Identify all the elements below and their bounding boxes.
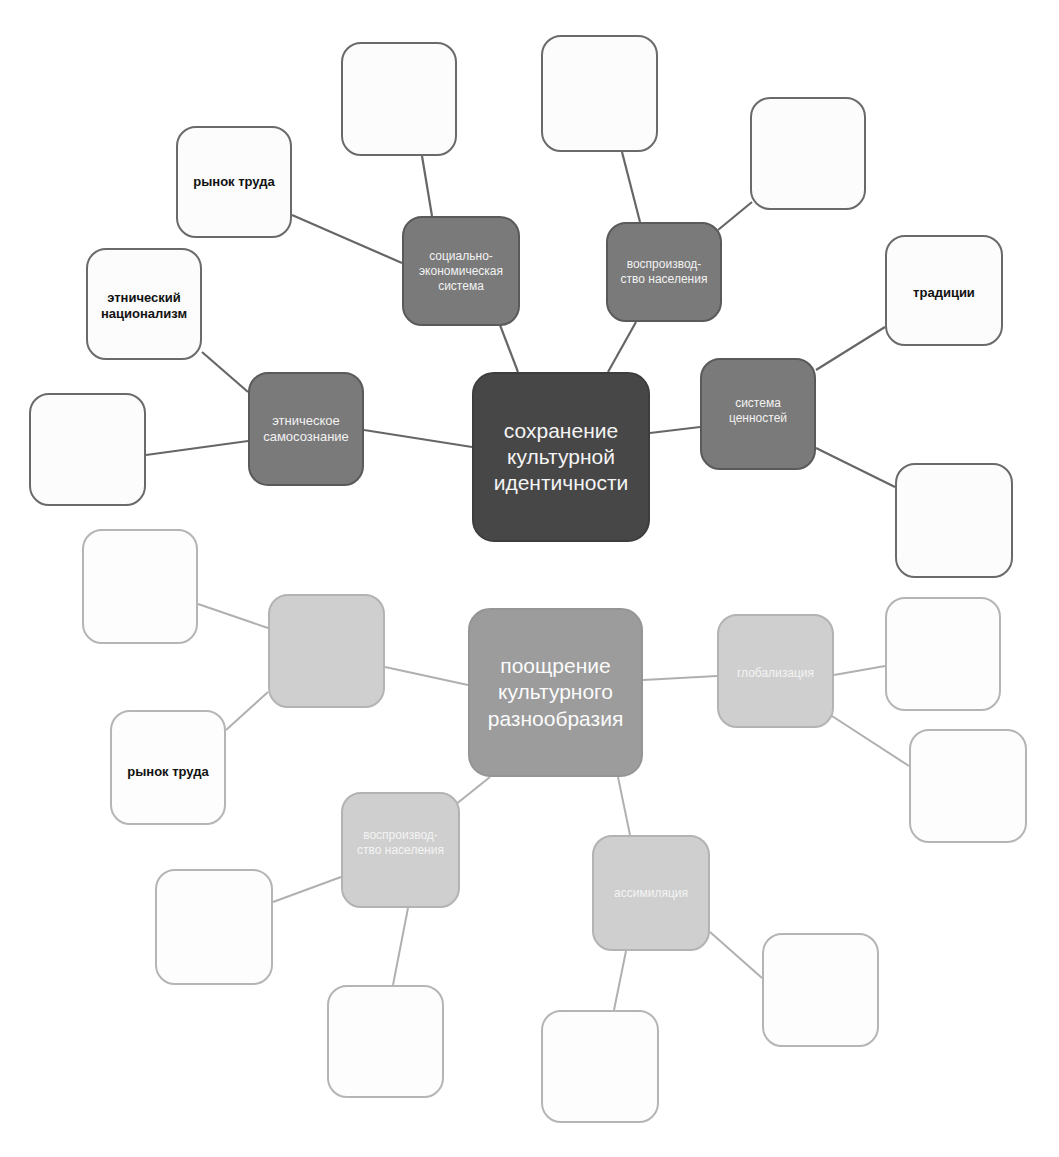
- edge-root-to-values: [650, 427, 700, 433]
- leaf-node-empty: [750, 97, 866, 210]
- leaf-node-empty: [327, 985, 444, 1098]
- leaf-node-labor-market: рынок труда: [110, 710, 226, 825]
- edge-ethnic-to-empty-left: [146, 441, 248, 455]
- branch-node-value-system: система ценностей: [700, 358, 816, 470]
- branch-node-label: система ценностей: [729, 396, 787, 426]
- branch-node-population-reproduction: воспроизвод- ство населения: [606, 222, 722, 322]
- edge-globalization-to-empty-2: [832, 716, 909, 766]
- edge-repro-to-empty-right: [718, 202, 752, 230]
- root-node-label: поощрение культурного разнообразия: [488, 653, 624, 732]
- edge-repro2-to-empty-bottom: [393, 908, 408, 985]
- branch-node-label: ассимиляция: [614, 886, 688, 901]
- branch-node-globalization: глобализация: [717, 614, 834, 728]
- leaf-node-ethnic-nationalism: этнический национализм: [86, 248, 202, 360]
- branch-node-socioeconomic-system: социально- экономическая система: [402, 216, 520, 326]
- leaf-node-traditions: традиции: [885, 235, 1003, 346]
- edge-root-to-ethnic-selfawareness: [364, 430, 472, 447]
- leaf-node-empty: [762, 933, 879, 1047]
- edge-repro2-to-empty-left: [273, 877, 341, 902]
- root-node-preserving-cultural-identity: сохранение культурной идентичности: [472, 372, 650, 542]
- edge-branch-to-labor-market: [226, 692, 268, 730]
- branch-node-label: воспроизвод- ство населения: [621, 257, 708, 287]
- edge-assim-to-empty-right: [710, 932, 762, 978]
- edge-root-to-socioeconomic: [500, 325, 518, 372]
- edge-root2-to-empty-branch: [385, 667, 468, 685]
- edge-ethnic-to-nationalism: [202, 352, 248, 392]
- leaf-node-empty: [155, 869, 273, 985]
- edge-socio-to-labor-market: [292, 215, 402, 263]
- leaf-node-empty: [909, 729, 1027, 843]
- branch-node-assimilation: ассимиляция: [592, 835, 710, 951]
- branch-node-label: воспроизвод- ство населения: [357, 828, 444, 858]
- edge-socio-to-empty-top: [422, 156, 432, 216]
- leaf-node-label: этнический национализм: [101, 290, 187, 323]
- edge-repro-to-empty-top: [622, 152, 640, 222]
- branch-node-label: этническое самосознание: [263, 413, 349, 446]
- leaf-node-labor-market: рынок труда: [176, 126, 292, 238]
- leaf-node-empty: [541, 35, 658, 152]
- leaf-node-label: традиции: [913, 285, 975, 301]
- leaf-node-empty: [29, 393, 146, 506]
- edge-root2-to-globalization: [643, 676, 717, 680]
- edge-globalization-to-empty-1: [834, 666, 885, 675]
- edge-root2-to-reproduction: [455, 777, 490, 805]
- branch-node-empty: [268, 594, 385, 708]
- edge-values-to-traditions: [816, 327, 885, 370]
- edge-root2-to-assimilation: [618, 777, 630, 835]
- leaf-node-empty: [541, 1010, 659, 1123]
- edge-assim-to-empty-bottom: [614, 951, 626, 1010]
- leaf-node-label: рынок труда: [193, 174, 274, 190]
- root-node-label: сохранение культурной идентичности: [494, 418, 629, 497]
- branch-node-label: социально- экономическая система: [419, 249, 503, 294]
- leaf-node-empty: [895, 463, 1013, 578]
- edge-values-to-empty: [816, 448, 895, 487]
- leaf-node-empty: [82, 529, 198, 644]
- root-node-encouraging-cultural-diversity: поощрение культурного разнообразия: [468, 608, 643, 777]
- leaf-node-empty: [341, 42, 457, 156]
- branch-node-population-reproduction: воспроизвод- ство населения: [341, 792, 460, 908]
- leaf-node-label: рынок труда: [127, 764, 208, 780]
- branch-node-ethnic-self-awareness: этническое самосознание: [248, 372, 364, 486]
- edge-root-to-reproduction: [608, 322, 636, 372]
- leaf-node-empty: [885, 597, 1001, 711]
- edge-branch-to-empty-leaf: [198, 604, 268, 628]
- branch-node-label: глобализация: [737, 666, 814, 681]
